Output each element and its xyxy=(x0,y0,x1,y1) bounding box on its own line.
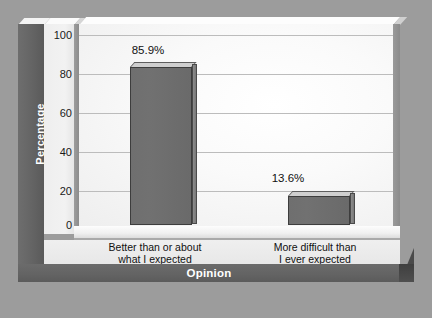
frame-right-shadow xyxy=(399,264,414,282)
bar-side-face-2 xyxy=(350,193,355,224)
y-tick-strip: 100 80 60 40 20 0 xyxy=(44,24,74,234)
bar-value-label-1: 85.9% xyxy=(103,44,193,56)
x-category-label-2-line1: More difficult than xyxy=(240,241,390,253)
gridline-100 xyxy=(79,35,393,36)
bar-1 xyxy=(130,67,192,225)
x-category-label-1-line1: Better than or about xyxy=(80,241,230,253)
y-tick-label-20: 20 xyxy=(44,186,72,197)
bar-value-label-2: 13.6% xyxy=(243,172,333,184)
x-category-label-panel: Better than or about what I expected Mor… xyxy=(44,240,400,266)
x-axis-title: Opinion xyxy=(18,266,400,281)
plot-wall-right-face xyxy=(393,24,400,239)
x-category-label-1: Better than or about what I expected xyxy=(80,241,230,265)
plot-area: 85.9% 13.6% xyxy=(79,24,393,226)
gridline-60 xyxy=(79,113,393,114)
gridline-40 xyxy=(79,152,393,153)
bar-chart: Percentage 100 80 60 40 20 0 85.9% 13.6% xyxy=(0,0,432,318)
bar-2 xyxy=(288,196,350,225)
y-tick-label-80: 80 xyxy=(44,69,72,80)
y-tick-label-40: 40 xyxy=(44,147,72,158)
y-tick-label-60: 60 xyxy=(44,108,72,119)
gridline-80 xyxy=(79,74,393,75)
y-tick-label-0: 0 xyxy=(44,220,72,231)
x-category-label-2: More difficult than I ever expected xyxy=(240,241,390,265)
y-tick-label-100: 100 xyxy=(44,30,72,41)
y-axis-band: Percentage xyxy=(18,24,44,282)
bar-side-face-1 xyxy=(192,64,197,224)
